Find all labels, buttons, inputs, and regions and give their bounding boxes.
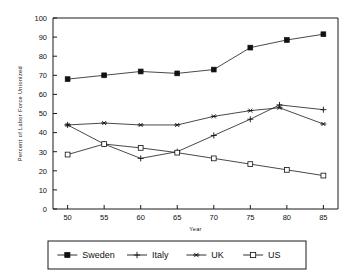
y-tick-label: 50 [39,109,47,118]
y-tick-label: 0 [43,205,47,214]
data-point-sweden [248,45,253,50]
x-tick-label: 55 [100,213,108,222]
chart-legend: SwedenItalyUKUS [48,241,306,269]
data-point-sweden [102,73,107,78]
series-us [65,142,326,178]
data-point-italy [247,116,253,122]
data-point-uk [320,122,326,126]
data-point-uk [138,123,144,127]
data-point-us [284,167,289,172]
y-tick-label: 100 [34,14,47,23]
y-tick-label: 70 [39,71,47,80]
series-line-uk [68,108,324,125]
legend-marker-us [251,252,256,257]
chart-figure: 01020304050607080901005055606570758085Ye… [0,0,352,276]
y-tick-label: 80 [39,52,47,61]
legend-label-sweden: Sweden [82,250,115,260]
data-point-uk [247,109,253,113]
data-point-sweden [175,71,180,76]
x-tick-label: 65 [173,213,181,222]
series-line-italy [68,105,324,158]
series-sweden [65,32,326,82]
data-point-italy [211,132,217,138]
data-point-uk [101,121,107,125]
data-point-us [65,152,70,157]
line-chart: 01020304050607080901005055606570758085Ye… [0,0,352,276]
data-point-us [138,145,143,150]
x-tick-label: 80 [283,213,291,222]
y-tick-label: 40 [39,128,47,137]
y-tick-label: 60 [39,90,47,99]
data-point-uk [211,114,217,118]
data-point-us [102,142,107,147]
y-tick-label: 30 [39,148,47,157]
data-point-us [248,162,253,167]
data-point-us [321,173,326,178]
data-point-italy [138,155,144,161]
data-point-sweden [321,32,326,37]
y-tick-label: 90 [39,33,47,42]
legend-label-us: US [268,250,281,260]
series-uk [65,106,327,127]
x-tick-label: 85 [319,213,327,222]
x-axis-title: Year [189,226,202,232]
y-tick-label: 10 [39,186,47,195]
data-point-italy [277,102,283,108]
data-point-italy [320,107,326,113]
data-point-us [211,156,216,161]
x-tick-label: 75 [246,213,254,222]
legend-marker-sweden [65,252,70,257]
y-tick-label: 20 [39,167,47,176]
data-point-sweden [138,69,143,74]
x-tick-label: 50 [63,213,71,222]
data-point-uk [174,123,180,127]
x-tick-label: 70 [210,213,218,222]
data-point-sweden [211,67,216,72]
legend-label-italy: Italy [152,250,169,260]
legend-label-uk: UK [211,250,224,260]
data-point-us [175,150,180,155]
y-axis-title: Percent of Labor Force Unionized [17,66,23,161]
x-tick-label: 60 [137,213,145,222]
data-point-sweden [284,38,289,43]
data-point-sweden [65,77,70,82]
